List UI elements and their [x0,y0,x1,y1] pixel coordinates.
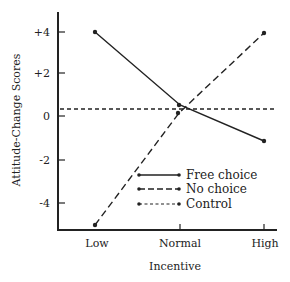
x-tick-label-normal: Normal [159,237,201,250]
series-no-choice-points [93,31,266,227]
series-free-choice-line [95,32,264,141]
y-axis-title: Attitude-Change Scores [10,53,23,187]
legend-item-control: Control [137,197,232,211]
legend-item-free-choice: Free choice [137,168,257,182]
x-tick-labels: Low Normal High [85,237,278,250]
x-axis-title: Incentive [149,260,201,273]
series-free-choice-points [93,30,266,143]
legend-item-no-choice: No choice [137,182,247,196]
legend: Free choice No choice Control [137,168,257,211]
y-tick-label: -2 [39,154,50,167]
x-tick-label-low: Low [85,237,109,250]
attitude-change-chart: +4 +2 0 -2 -4 Low Normal High Incentive … [0,0,290,282]
legend-label: Free choice [186,168,257,182]
y-tick-label: -4 [39,197,50,210]
legend-label: Control [186,197,232,211]
x-tick-label-high: High [251,237,278,250]
y-tick-label: 0 [43,110,50,123]
y-tick-label: +2 [34,67,50,80]
series-no-choice-line [95,33,264,225]
legend-label: No choice [186,182,247,196]
y-tick-labels: +4 +2 0 -2 -4 [34,26,50,210]
y-tick-label: +4 [34,26,50,39]
y-ticks [58,32,65,203]
